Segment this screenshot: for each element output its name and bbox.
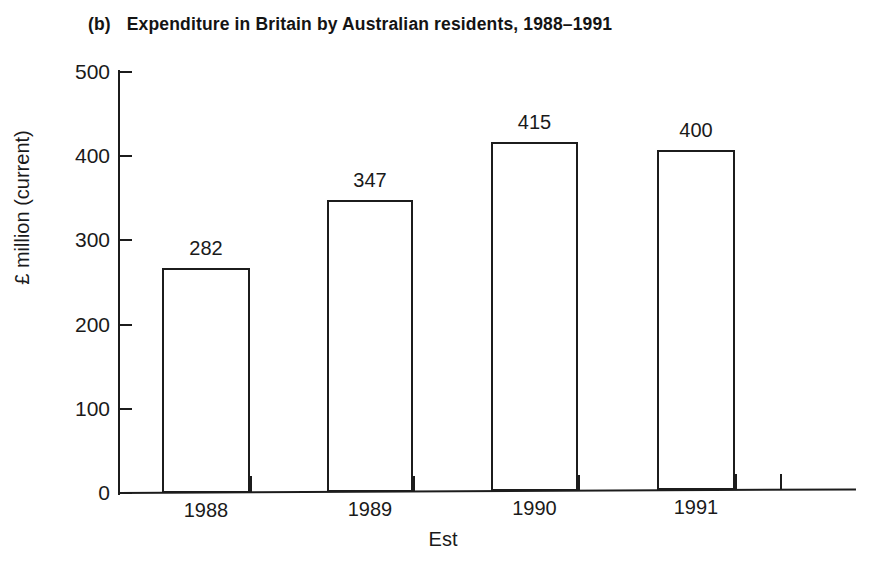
y-axis-tick-label: 0 [58,482,110,503]
y-axis-tick [120,408,132,410]
y-axis-tick [120,492,132,494]
panel-letter: (b) [88,14,111,34]
x-axis-category-label: 1989 [325,498,415,520]
x-axis-tick [578,475,580,491]
bar-value-label: 347 [297,170,443,190]
x-axis-tick [250,476,252,492]
y-axis-tick [120,239,132,241]
bar [491,142,578,491]
bar [327,200,413,492]
chart-title: (b)Expenditure in Britain by Australian … [88,14,612,35]
x-axis-tick [413,476,415,492]
y-axis-tick [120,155,132,157]
x-axis-category-label: 1991 [651,496,741,518]
chart-title-text: Expenditure in Britain by Australian res… [127,14,612,34]
y-axis-tick-label: 100 [58,398,110,419]
y-axis-tick [120,324,132,326]
x-axis-tick [780,474,782,490]
y-axis-tick [120,71,132,73]
y-axis-tick-label: 300 [58,229,110,250]
bar [162,268,250,493]
bar-value-label: 400 [627,120,765,140]
x-axis-category-label: 1990 [490,497,580,519]
y-axis-spine [118,70,120,495]
x-axis-category-label: 1988 [161,499,251,521]
x-axis-tick [735,474,737,490]
y-axis-tick-label: 500 [58,61,110,82]
y-axis-tick-label: 200 [58,314,110,335]
x-axis-title: Est [398,528,488,551]
bar-chart-figure: (b)Expenditure in Britain by Australian … [0,0,892,565]
bar [657,150,735,490]
bar-value-label: 415 [461,112,608,132]
y-axis-title: £ million (current) [11,78,34,338]
y-axis-tick-label: 400 [58,145,110,166]
bar-value-label: 282 [132,238,280,258]
